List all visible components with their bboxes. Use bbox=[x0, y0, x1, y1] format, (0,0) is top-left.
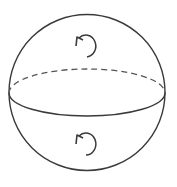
diagram-canvas bbox=[0, 0, 177, 187]
sphere-diagram bbox=[0, 0, 177, 187]
equator-front-solid bbox=[9, 93, 165, 116]
upper-rotation-arrow-icon bbox=[76, 35, 96, 57]
equator-back-dashed bbox=[9, 69, 165, 93]
sphere-outline bbox=[9, 15, 165, 171]
lower-rotation-arrow-icon bbox=[76, 133, 96, 155]
